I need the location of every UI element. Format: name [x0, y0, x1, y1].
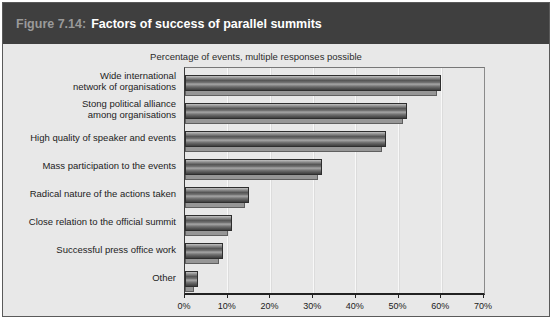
- axis-tick: [312, 294, 313, 298]
- axis-tick: [227, 294, 228, 298]
- bar-2: [185, 103, 407, 119]
- axis-tick-label: 60%: [420, 301, 460, 311]
- bar-8: [185, 271, 198, 287]
- category-label: Close relation to the official summit: [3, 208, 181, 236]
- category-label: High quality of speaker and events: [3, 123, 181, 151]
- axis-tick-label: 70%: [463, 301, 503, 311]
- figure-title: Factors of success of parallel summits: [91, 17, 322, 31]
- axis-tick: [355, 294, 356, 298]
- axis-tick: [483, 294, 484, 298]
- axis-tick-label: 40%: [335, 301, 375, 311]
- category-label: Wide internationalnetwork of organisatio…: [3, 67, 181, 95]
- category-label: Other: [3, 264, 181, 292]
- axis-tick: [398, 294, 399, 298]
- category-label: Mass participation to the events: [3, 151, 181, 179]
- figure-panel: Figure 7.14: Factors of success of paral…: [2, 2, 550, 317]
- category-label: Successful press office work: [3, 236, 181, 264]
- bar-3: [185, 131, 386, 147]
- bar-6: [185, 215, 232, 231]
- axis-tick-label: 20%: [249, 301, 289, 311]
- category-label: Stong political allianceamong organisati…: [3, 95, 181, 123]
- gridline-60%: [441, 68, 442, 293]
- figure-number-label: Figure 7.14:: [16, 17, 86, 31]
- axis-tick: [184, 294, 185, 298]
- axis-tick-label: 50%: [378, 301, 418, 311]
- axis-tick: [440, 294, 441, 298]
- category-label: Radical nature of the actions taken: [3, 180, 181, 208]
- bar-4: [185, 159, 322, 175]
- bar-7: [185, 243, 223, 259]
- axis-tick-label: 0%: [164, 301, 204, 311]
- axis-tick: [269, 294, 270, 298]
- bar-1: [185, 75, 441, 91]
- figure-title-bar: Figure 7.14: Factors of success of paral…: [3, 3, 549, 44]
- axis-tick-label: 30%: [292, 301, 332, 311]
- axis-tick-label: 10%: [207, 301, 247, 311]
- chart-subtitle: Percentage of events, multiple responses…: [3, 51, 509, 62]
- plot-area: [184, 67, 485, 295]
- bar-5: [185, 187, 249, 203]
